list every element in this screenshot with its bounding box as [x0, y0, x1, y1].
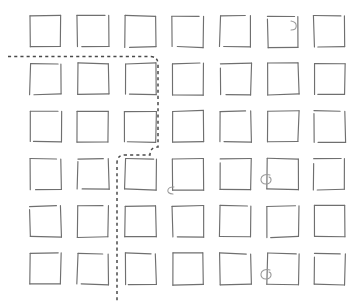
grid-square[interactable]	[220, 63, 251, 95]
grid-square[interactable]	[315, 64, 346, 95]
grid-square[interactable]	[173, 253, 203, 285]
square-edge-top	[220, 111, 245, 112]
square-edge-right	[298, 63, 299, 94]
grid-square[interactable]	[219, 205, 250, 236]
grid-square[interactable]	[219, 15, 250, 46]
grid-square[interactable]	[220, 158, 251, 189]
square-edge-right	[156, 206, 157, 237]
square-edge-top	[172, 63, 199, 64]
square-edge-top	[220, 253, 247, 254]
square-edge-right	[345, 64, 346, 95]
square-edge-bottom	[314, 284, 344, 285]
square-edge-bottom	[271, 236, 299, 237]
square-edge-left	[219, 205, 220, 236]
square-edge-top	[30, 206, 57, 207]
square-edge-bottom	[127, 142, 155, 143]
square-edge-top	[125, 253, 151, 254]
grid-square[interactable]	[125, 206, 157, 237]
square-edge-left	[30, 210, 31, 237]
square-edge-bottom	[267, 189, 299, 190]
grid-square[interactable]	[314, 253, 345, 285]
square-edge-left	[267, 253, 268, 284]
grid-square[interactable]	[267, 111, 299, 142]
square-edge-top	[268, 111, 299, 112]
square-edge-top	[314, 253, 340, 254]
square-edge-top	[30, 253, 58, 254]
square-edge-right	[251, 254, 252, 284]
square-edge-top	[220, 205, 247, 206]
grid-square[interactable]	[314, 111, 346, 143]
grid-square[interactable]	[77, 15, 109, 46]
square-edge-left	[219, 16, 220, 47]
square-edge-top	[220, 63, 251, 64]
grid-square[interactable]	[30, 111, 61, 142]
square-edge-bottom	[177, 46, 203, 47]
square-edge-bottom	[30, 236, 61, 237]
square-edge-top	[126, 63, 156, 64]
grid-square[interactable]	[30, 64, 62, 95]
grid-square[interactable]	[220, 111, 252, 142]
grid-square[interactable]	[267, 253, 299, 285]
grid-square[interactable]	[313, 16, 344, 47]
grid-square[interactable]	[77, 111, 108, 142]
grid-square[interactable]	[268, 63, 299, 95]
square-edge-right	[298, 111, 299, 142]
square-edge-bottom	[173, 284, 203, 285]
square-edge-right	[108, 206, 109, 237]
grid-square[interactable]	[30, 159, 61, 190]
grid-square[interactable]	[77, 206, 108, 238]
grid-square[interactable]	[30, 15, 61, 46]
square-edge-top	[125, 206, 155, 207]
square-edge-right	[61, 159, 62, 190]
square-edge-bottom	[220, 284, 251, 285]
grid-square[interactable]	[77, 253, 109, 284]
grid-square[interactable]	[314, 205, 345, 236]
grid-square[interactable]	[173, 110, 204, 142]
grid-square[interactable]	[125, 159, 157, 191]
grid-square[interactable]	[172, 63, 203, 95]
grid-square[interactable]	[172, 205, 204, 237]
square-edge-right	[155, 254, 156, 285]
grid-square[interactable]	[313, 158, 344, 190]
grid-square[interactable]	[125, 253, 156, 285]
grid-square[interactable]	[124, 112, 156, 143]
square-edge-top	[125, 15, 155, 16]
square-edge-top	[78, 253, 103, 254]
grid-square[interactable]	[220, 253, 252, 285]
square-edge-left	[267, 19, 268, 48]
square-edge-left	[77, 15, 78, 46]
square-edge-right	[299, 254, 300, 285]
curl-r1c6-icon	[291, 21, 296, 30]
square-edge-top	[126, 159, 154, 160]
square-edge-bottom	[81, 284, 108, 285]
grid-square[interactable]	[267, 206, 299, 238]
square-edge-left	[220, 253, 221, 285]
grid-square[interactable]	[78, 63, 109, 95]
square-edge-left	[313, 16, 314, 47]
grid-square[interactable]	[172, 159, 203, 191]
square-edge-right	[108, 64, 109, 94]
grid-square[interactable]	[30, 206, 62, 237]
curl-r4c6-icon	[261, 175, 271, 185]
square-edge-top	[173, 110, 204, 111]
sketch-scene	[0, 0, 356, 303]
square-edge-left	[77, 162, 78, 189]
grid-square[interactable]	[125, 15, 156, 47]
square-edge-bottom	[267, 284, 299, 285]
square-edge-right	[156, 112, 157, 143]
grid-square[interactable]	[30, 253, 61, 284]
diagram-canvas	[0, 0, 356, 303]
square-edge-top	[267, 158, 298, 159]
square-edge-right	[108, 159, 109, 190]
grid-square[interactable]	[77, 159, 109, 190]
grid-square[interactable]	[126, 63, 157, 95]
square-edge-left	[125, 159, 126, 189]
square-edge-bottom	[317, 189, 344, 190]
grid-square[interactable]	[267, 158, 299, 189]
grid-square[interactable]	[172, 16, 204, 47]
curl-r6c6-icon	[261, 270, 271, 280]
curl-marks-layer	[168, 21, 296, 279]
square-edge-bottom	[77, 237, 108, 238]
square-edge-right	[251, 63, 252, 95]
square-edge-bottom	[129, 94, 156, 95]
